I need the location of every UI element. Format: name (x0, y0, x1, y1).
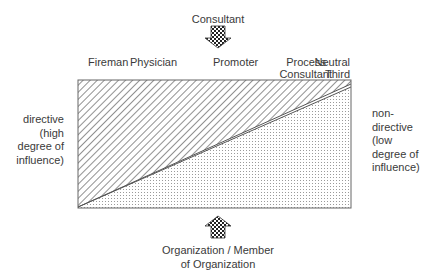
role-promoter: Promoter (213, 56, 258, 68)
role-physician: Physician (130, 56, 177, 68)
non-directive-label: non- directive (low degree of influence) (372, 107, 420, 175)
consultant-label: Consultant (178, 13, 258, 25)
organization-arrow-icon (205, 216, 231, 238)
non-directive-line: influence) (372, 161, 420, 175)
role-neutral-line1: Neutral (300, 56, 350, 68)
directive-line: degree of (0, 140, 64, 154)
non-directive-line: degree of (372, 148, 420, 162)
role-fireman: Fireman (88, 56, 128, 68)
role-neutral-third: Neutral Third (300, 56, 350, 80)
directive-line: directive (0, 113, 64, 127)
non-directive-line: non- (372, 107, 420, 121)
non-directive-line: directive (372, 121, 420, 135)
organization-line1: Organization / Member (148, 243, 288, 257)
organization-line2: of Organization (148, 257, 288, 271)
organization-label: Organization / Member of Organization (148, 243, 288, 271)
non-directive-line: (low (372, 134, 420, 148)
directive-line: (high (0, 127, 64, 141)
role-neutral-line2: Third (300, 68, 350, 80)
consultant-arrow-icon (205, 26, 231, 48)
directive-label: directive (high degree of influence) (0, 113, 64, 167)
directive-line: influence) (0, 154, 64, 168)
